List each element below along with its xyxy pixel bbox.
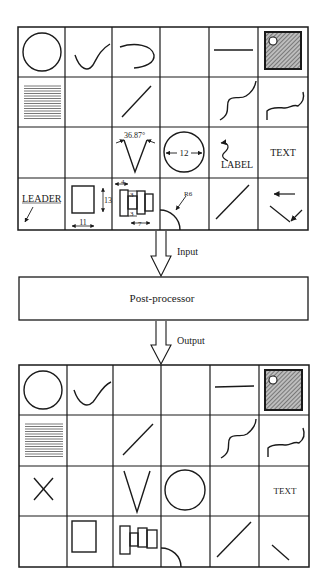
line-entity xyxy=(122,86,151,117)
label-text: LABEL xyxy=(221,159,253,170)
angle-arrow xyxy=(147,140,155,143)
dim-3b-text: 3 xyxy=(130,210,134,218)
hole-circle xyxy=(269,37,277,45)
input-arrow xyxy=(151,231,171,276)
circle-entity xyxy=(24,371,62,409)
spline-entity xyxy=(268,428,304,457)
rectangle-entity xyxy=(72,521,96,552)
dim-4-text: 4 xyxy=(121,178,125,186)
angle-lines-entity xyxy=(124,471,150,512)
text-entity: TEXT xyxy=(270,147,296,158)
leader-bent-entity xyxy=(270,206,290,222)
spline-entity xyxy=(220,81,256,120)
hatch-lines-entity xyxy=(25,424,63,457)
post-processor-label: Post-processor xyxy=(130,292,195,304)
output-grid xyxy=(19,365,309,567)
diameter-circle xyxy=(165,470,205,510)
line-entity xyxy=(216,185,249,219)
circle-entity xyxy=(23,33,61,71)
radius-arc-entity xyxy=(160,210,180,230)
line-entity xyxy=(217,522,251,557)
rectangle-entity xyxy=(72,186,94,213)
line-entity xyxy=(123,424,153,455)
input-grid xyxy=(18,27,308,230)
hole-circle xyxy=(269,376,277,384)
text-entity: TEXT xyxy=(274,486,297,496)
spline-entity xyxy=(74,382,111,405)
radius-arc-entity xyxy=(161,548,181,567)
spline-entity xyxy=(221,419,256,458)
radius-text: R6 xyxy=(184,190,193,198)
stepped-shaft-entity xyxy=(120,526,157,554)
leader-line-entity xyxy=(272,545,289,560)
angle-dimension-text: 36.87° xyxy=(124,131,145,140)
dim-3a-text: 3 xyxy=(130,191,134,199)
stepped-shaft-entity xyxy=(120,190,153,216)
dim-7-text: 7 xyxy=(138,220,142,228)
diameter-dimension-text: 12 xyxy=(180,148,189,158)
arc-entity xyxy=(120,45,154,68)
rect-height-text: 13 xyxy=(104,196,112,205)
spline-entity xyxy=(267,92,304,120)
angle-arrow xyxy=(116,140,124,143)
radius-leader xyxy=(176,196,186,210)
hatch-lines-entity xyxy=(24,86,61,119)
rect-width-text: 11 xyxy=(79,218,87,227)
angle-lines-entity xyxy=(124,140,147,172)
output-label: Output xyxy=(177,335,205,346)
leader-text: LEADER xyxy=(22,193,62,204)
post-processor-diagram: 36.87° 12 LABEL TEXT LEADER 13 11 4 3 3 … xyxy=(0,0,325,583)
hatched-region xyxy=(265,370,302,410)
line-entity xyxy=(215,386,254,387)
output-arrow xyxy=(151,321,171,364)
leader-bent-arrow xyxy=(291,210,302,221)
input-label: Input xyxy=(177,246,198,257)
leader-line xyxy=(25,207,33,222)
point-marker-x-icon xyxy=(34,478,53,500)
spline-entity xyxy=(75,44,110,69)
